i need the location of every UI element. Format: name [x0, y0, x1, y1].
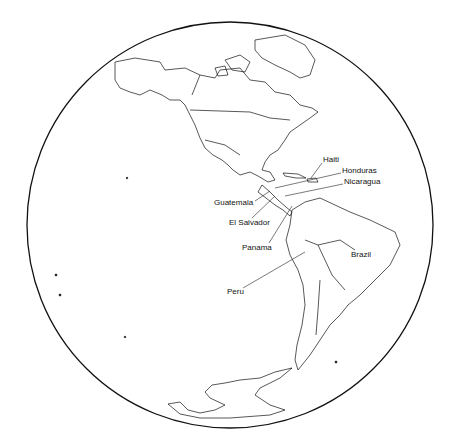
label-el-salvador: El Salvador — [229, 219, 270, 227]
globe-map — [0, 0, 456, 447]
label-peru: Peru — [227, 288, 244, 296]
label-brazil: Brazil — [351, 251, 371, 259]
label-haiti: Haiti — [323, 156, 339, 164]
label-panama: Panama — [242, 244, 272, 252]
label-nicaragua: Nicaragua — [344, 178, 380, 186]
label-guatemala: Guatemala — [214, 199, 253, 207]
label-honduras: Honduras — [342, 167, 377, 175]
